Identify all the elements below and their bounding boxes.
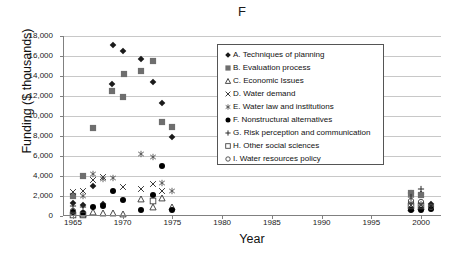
gridline — [63, 176, 441, 177]
legend-item: E. Water law and institutions — [222, 100, 383, 113]
chart-legend: A. Techniques of planningB. Evaluation p… — [217, 44, 384, 165]
x-tick-mark — [322, 216, 323, 219]
data-point-a — [159, 100, 166, 107]
legend-item: A. Techniques of planning — [222, 48, 383, 61]
y-tick-mark — [60, 96, 63, 97]
data-point-c — [408, 205, 415, 212]
plus-icon — [222, 127, 233, 138]
data-point-d — [119, 184, 126, 191]
filled-circle-icon — [222, 114, 233, 125]
x-tick-mark — [421, 216, 422, 219]
legend-item: C. Economic Issues — [222, 74, 383, 87]
data-point-g — [408, 194, 415, 201]
data-point-e — [159, 179, 166, 186]
y-tick-mark — [60, 116, 63, 117]
legend-item-label: I. Water resources policy — [233, 154, 321, 163]
data-point-b — [159, 118, 166, 125]
y-tick-label: 2,000 — [33, 192, 53, 200]
x-tick-label: 1985 — [263, 218, 281, 227]
data-point-a — [119, 48, 126, 55]
data-point-e — [169, 188, 176, 195]
legend-item: G. Risk perception and communication — [222, 126, 383, 139]
data-point-a — [69, 200, 76, 207]
data-point-c — [149, 203, 156, 210]
y-tick-label: 6,000 — [33, 152, 53, 160]
data-point-g — [79, 204, 86, 211]
y-tick-mark — [60, 196, 63, 197]
data-point-f — [418, 206, 425, 213]
data-point-g — [418, 186, 425, 193]
filled-square-icon — [222, 62, 233, 73]
data-point-b — [169, 124, 176, 131]
y-tick-mark — [60, 216, 63, 217]
y-axis-line — [63, 36, 64, 216]
data-point-f — [159, 163, 166, 170]
data-point-a — [149, 78, 156, 85]
legend-item-label: F. Nonstructural alternatives — [233, 115, 332, 124]
data-point-h — [408, 203, 415, 210]
legend-item: D. Water demand — [222, 87, 383, 100]
x-tick-mark — [73, 216, 74, 219]
open-circle-icon — [222, 153, 233, 164]
x-tick-label: 1980 — [213, 218, 231, 227]
x-tick-label: 1975 — [164, 218, 182, 227]
data-point-f — [428, 206, 435, 213]
data-point-d — [89, 177, 96, 184]
legend-item: F. Nonstructural alternatives — [222, 113, 383, 126]
data-point-f — [99, 202, 106, 209]
legend-item: B. Evaluation process — [222, 61, 383, 74]
y-tick-mark — [60, 56, 63, 57]
x-tick-label: 1990 — [313, 218, 331, 227]
data-point-g — [69, 203, 76, 210]
data-point-h — [149, 197, 156, 204]
open-square-icon — [222, 140, 233, 151]
data-point-i — [69, 208, 76, 215]
y-tick-mark — [60, 176, 63, 177]
data-point-g — [428, 203, 435, 210]
data-point-f — [137, 207, 144, 214]
data-point-d — [99, 174, 106, 181]
data-point-e — [408, 199, 415, 206]
data-point-d — [149, 181, 156, 188]
chart-figure: F 02,0004,0006,0008,00010,00012,00014,00… — [0, 0, 456, 258]
legend-item: H. Other social sciences — [222, 139, 383, 152]
data-point-a — [109, 42, 116, 49]
legend-item: I. Water resources policy — [222, 152, 383, 165]
data-point-d — [69, 189, 76, 196]
legend-item-label: B. Evaluation process — [233, 63, 310, 72]
legend-item-label: A. Techniques of planning — [233, 50, 324, 59]
y-tick-mark — [60, 156, 63, 157]
data-point-f — [119, 196, 126, 203]
data-point-b — [137, 68, 144, 75]
data-point-f — [169, 207, 176, 214]
x-axis-tick-labels: 19651970197519801985199019952000 — [63, 218, 441, 232]
legend-item-label: C. Economic Issues — [233, 76, 304, 85]
y-tick-mark — [60, 76, 63, 77]
data-point-f — [89, 203, 96, 210]
data-point-d — [159, 187, 166, 194]
asterisk-icon — [222, 101, 233, 112]
data-point-c — [169, 203, 176, 210]
y-tick-mark — [60, 36, 63, 37]
y-axis-title: Funding ($ thousands) — [20, 16, 34, 166]
data-point-i — [408, 198, 415, 205]
legend-item-label: G. Risk perception and communication — [233, 128, 370, 137]
data-point-a — [89, 182, 96, 189]
data-point-b — [108, 88, 115, 95]
data-point-b — [89, 125, 96, 132]
data-point-a — [79, 201, 86, 208]
data-point-f — [109, 187, 116, 194]
y-tick-label: 4,000 — [33, 172, 53, 180]
x-cross-icon — [222, 88, 233, 99]
filled-diamond-icon — [222, 49, 233, 60]
data-point-b — [119, 94, 126, 101]
data-point-h — [418, 202, 425, 209]
data-point-a — [108, 80, 115, 87]
data-point-i — [428, 204, 435, 211]
data-point-a — [408, 189, 415, 196]
x-tick-mark — [123, 216, 124, 219]
legend-item-label: E. Water law and institutions — [233, 102, 334, 111]
x-tick-mark — [222, 216, 223, 219]
data-point-d — [79, 187, 86, 194]
data-point-b — [149, 58, 156, 65]
